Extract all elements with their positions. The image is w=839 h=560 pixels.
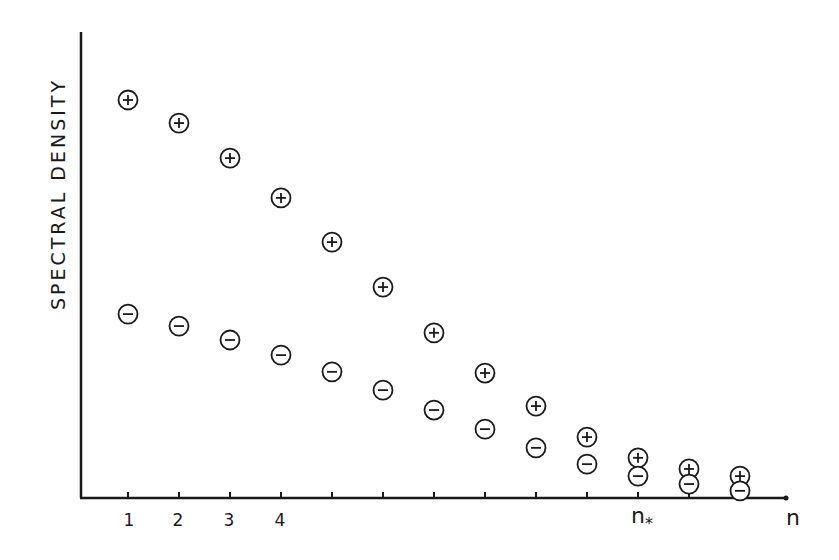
- circled-plus-marker: [272, 188, 291, 207]
- circled-minus-marker: [425, 401, 444, 420]
- circled-minus-marker: [731, 481, 750, 500]
- circled-minus-marker: [374, 381, 393, 400]
- x-tick-label-4: 4: [275, 510, 286, 530]
- circled-plus-marker: [425, 323, 444, 342]
- circled-plus-marker: [221, 149, 240, 168]
- x-tick-label-3: 3: [224, 510, 235, 530]
- circled-minus-marker: [680, 475, 699, 494]
- circled-plus-marker: [374, 278, 393, 297]
- circled-minus-marker: [578, 455, 597, 474]
- circled-plus-marker: [476, 364, 495, 383]
- circled-plus-marker: [578, 428, 597, 447]
- circled-plus-marker: [527, 397, 546, 416]
- circled-plus-marker: [119, 91, 138, 110]
- x-tick-label-n-star: n*: [631, 503, 653, 533]
- n-star-subscript: *: [645, 514, 653, 533]
- circled-plus-marker: [323, 233, 342, 252]
- x-axis-end-dot: [784, 496, 789, 501]
- spectral-density-plot: [0, 0, 839, 560]
- x-axis-label: n: [786, 505, 800, 530]
- axes: [80, 32, 786, 498]
- circled-minus-marker: [221, 330, 240, 349]
- y-axis-label: SPECTRAL DENSITY: [47, 78, 69, 310]
- n-star-base: n: [631, 503, 645, 528]
- circled-minus-marker: [119, 305, 138, 324]
- circled-minus-marker: [629, 467, 648, 486]
- circled-minus-marker: [323, 362, 342, 381]
- circled-plus-marker: [170, 114, 189, 133]
- circled-plus-marker: [629, 448, 648, 467]
- circled-minus-marker: [170, 317, 189, 336]
- series-plus: [119, 91, 750, 486]
- circled-minus-marker: [272, 346, 291, 365]
- x-tick-label-1: 1: [124, 510, 135, 530]
- x-tick-label-2: 2: [173, 510, 184, 530]
- circled-minus-marker: [527, 438, 546, 457]
- circled-minus-marker: [476, 420, 495, 439]
